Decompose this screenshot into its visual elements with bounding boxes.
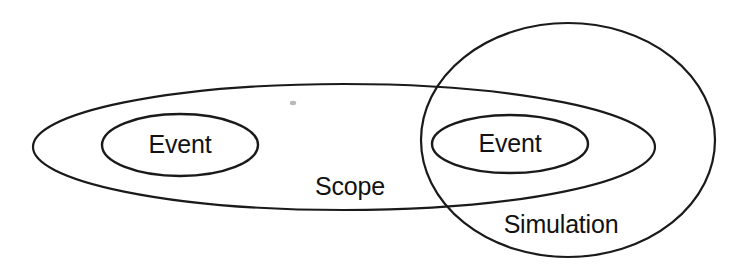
scope-label: Scope	[315, 172, 385, 200]
venn-diagram-canvas: Event Event Scope Simulation	[0, 0, 738, 268]
simulation-label: Simulation	[504, 210, 619, 238]
event-left-label: Event	[149, 130, 212, 158]
diagram-svg: Event Event Scope Simulation	[0, 0, 738, 268]
scan-speck-artifact	[290, 101, 296, 105]
event-right-label: Event	[479, 129, 542, 157]
